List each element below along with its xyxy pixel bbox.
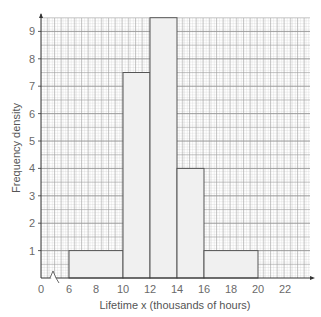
svg-text:4: 4 (29, 162, 35, 174)
svg-text:2: 2 (29, 217, 35, 229)
svg-text:8: 8 (93, 283, 99, 295)
svg-text:12: 12 (144, 283, 156, 295)
svg-text:5: 5 (29, 135, 35, 147)
svg-text:10: 10 (117, 283, 129, 295)
svg-text:6: 6 (29, 108, 35, 120)
histogram-bar (204, 251, 258, 278)
svg-text:22: 22 (279, 283, 291, 295)
svg-text:16: 16 (198, 283, 210, 295)
x-axis-label: Lifetime x (thousands of hours) (99, 299, 250, 311)
svg-text:9: 9 (29, 25, 35, 37)
histogram-bar (177, 168, 204, 278)
svg-text:6: 6 (66, 283, 72, 295)
svg-text:0: 0 (38, 283, 44, 295)
y-axis-label: Frequency density (10, 103, 22, 193)
histogram-bar (123, 73, 150, 279)
svg-text:14: 14 (171, 283, 183, 295)
svg-text:20: 20 (252, 283, 264, 295)
histogram-chart: 12345678906810121416182022 Lifetime x (t… (0, 0, 321, 317)
histogram-bar (150, 18, 177, 278)
svg-text:3: 3 (29, 190, 35, 202)
svg-text:1: 1 (29, 245, 35, 257)
svg-text:8: 8 (29, 53, 35, 65)
svg-text:18: 18 (225, 283, 237, 295)
svg-text:7: 7 (29, 80, 35, 92)
histogram-bar (69, 251, 123, 278)
